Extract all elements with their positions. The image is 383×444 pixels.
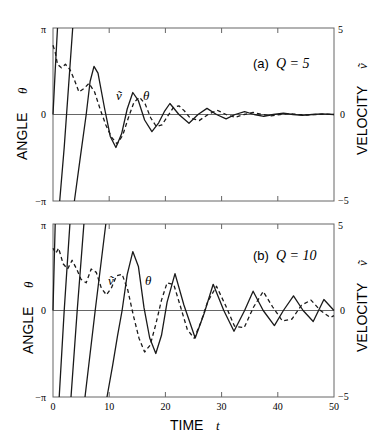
right-tick-top-b: 5 bbox=[338, 220, 343, 231]
x-axis-symbol: t bbox=[216, 418, 220, 433]
theta-curve bbox=[107, 252, 334, 397]
right-axis-symbol-b: ṽ bbox=[355, 259, 370, 266]
theta-curve bbox=[53, 28, 58, 115]
left-axis-title-a: ANGLE bbox=[14, 113, 30, 160]
velocity-curve bbox=[53, 248, 334, 352]
x-tick-label: 30 bbox=[217, 401, 227, 412]
q-label-b: Q = 10 bbox=[276, 248, 317, 263]
left-tick-bottom-b: −π bbox=[35, 392, 46, 403]
x-tick-label: 40 bbox=[273, 401, 283, 412]
x-tick-label: 10 bbox=[104, 401, 114, 412]
left-tick-mid-a: 0 bbox=[41, 109, 46, 120]
right-tick-bottom-a: −5 bbox=[338, 195, 349, 206]
right-axis-symbol-a: ṽ bbox=[355, 62, 370, 69]
theta-curve bbox=[74, 66, 334, 201]
x-tick-label: 50 bbox=[329, 401, 339, 412]
left-tick-mid-b: 0 bbox=[41, 305, 46, 316]
panel-label-a: (a) bbox=[253, 56, 269, 71]
left-tick-top-b: π bbox=[41, 220, 46, 231]
right-axis-title-a: VELOCITY bbox=[354, 85, 370, 155]
q-label-a: Q = 5 bbox=[276, 56, 310, 71]
right-axis-title-b: VELOCITY bbox=[354, 282, 370, 352]
panel-b: π 0 −π 5 0 −5 (b) Q = 10 ṽ θ ANGLE θ VEL… bbox=[20, 220, 370, 433]
left-axis-title-b: ANGLE bbox=[20, 307, 36, 354]
panel-label-b: (b) bbox=[253, 248, 269, 263]
annot-v-a: ṽ bbox=[116, 88, 123, 103]
left-tick-top-a: π bbox=[41, 24, 46, 35]
right-tick-mid-b: 0 bbox=[340, 305, 345, 316]
figure: π 0 −π 5 0 −5 (a) Q = 5 ṽ θ ANGLE θ VELO… bbox=[0, 0, 383, 444]
left-axis-symbol-b: θ bbox=[21, 281, 36, 288]
left-tick-bottom-a: −π bbox=[35, 196, 46, 207]
x-tick-label: 20 bbox=[160, 401, 170, 412]
x-tick-label: 0 bbox=[51, 401, 56, 412]
annot-theta-b: θ bbox=[145, 273, 152, 288]
panel-a: π 0 −π 5 0 −5 (a) Q = 5 ṽ θ ANGLE θ VELO… bbox=[14, 24, 370, 207]
left-axis-symbol-a: θ bbox=[15, 87, 30, 94]
annot-theta-a: θ bbox=[143, 88, 150, 103]
right-tick-mid-a: 0 bbox=[340, 109, 345, 120]
x-tick-labels: 01020304050 bbox=[51, 401, 340, 412]
right-tick-top-a: 5 bbox=[338, 24, 343, 35]
x-axis-title: TIME bbox=[170, 417, 203, 433]
right-tick-bottom-b: −5 bbox=[338, 391, 349, 402]
